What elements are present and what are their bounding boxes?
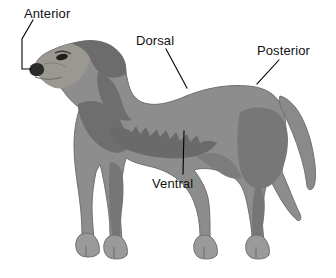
anterior-bracket-line <box>22 20 33 69</box>
dog-nose <box>29 63 44 76</box>
dog-front-paw-far <box>104 235 128 259</box>
dog-hind-paw-far <box>246 235 270 259</box>
dorsal-leader-line <box>166 49 187 88</box>
label-posterior: Posterior <box>257 43 310 58</box>
label-anterior: Anterior <box>24 6 70 21</box>
anatomy-figure: Anterior Dorsal Posterior Ventral <box>0 0 336 278</box>
dog-front-paw-near <box>76 233 100 257</box>
label-ventral: Ventral <box>152 176 193 191</box>
dog-body-group <box>29 40 315 259</box>
dog-hind-paw-near <box>194 235 218 259</box>
label-dorsal: Dorsal <box>136 33 174 48</box>
posterior-leader-line <box>257 60 279 84</box>
